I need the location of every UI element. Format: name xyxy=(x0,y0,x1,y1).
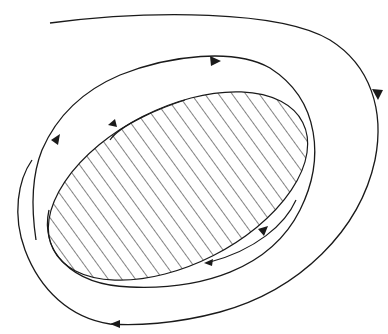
arrow-right-icon xyxy=(210,56,221,66)
arrow-up-icon xyxy=(51,134,60,145)
arrow-down-left-icon xyxy=(258,226,268,236)
hatched-region xyxy=(0,0,388,334)
diagram-canvas xyxy=(0,0,388,334)
arrow-down-left-icon-2 xyxy=(108,119,117,127)
phase-portrait-svg xyxy=(0,0,388,334)
arrow-left-icon-2 xyxy=(110,320,120,328)
